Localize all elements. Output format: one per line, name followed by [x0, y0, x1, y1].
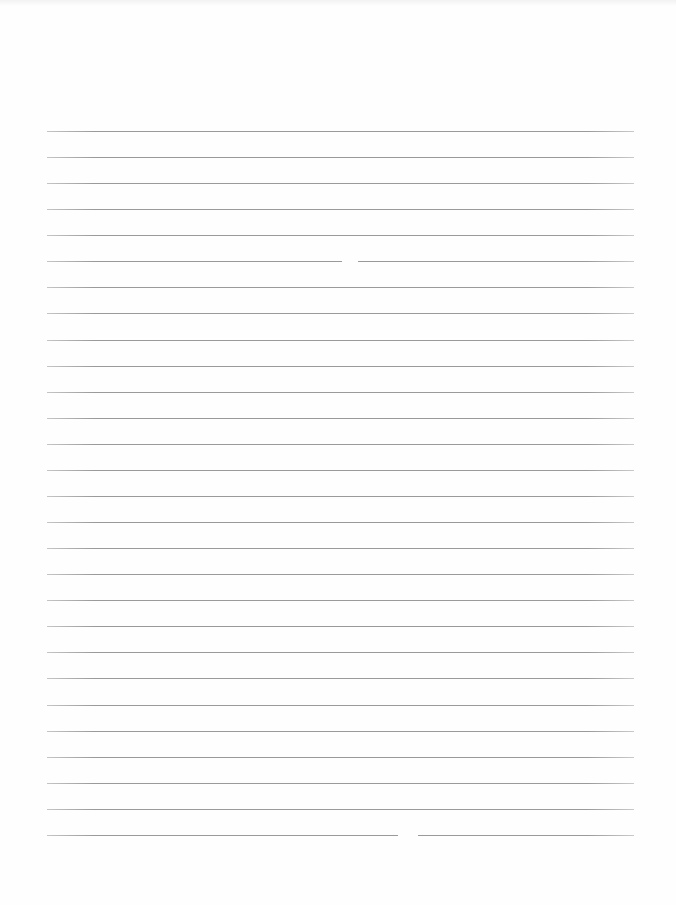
ruled-line	[47, 366, 634, 367]
ruled-line	[47, 183, 634, 184]
ruled-line	[47, 626, 634, 627]
ruled-line	[47, 574, 634, 575]
ruled-line	[47, 287, 634, 288]
ruled-line	[47, 209, 634, 210]
line-break-gap	[342, 260, 358, 263]
ruled-line	[47, 705, 634, 706]
scan-edge-shading	[0, 0, 676, 6]
ruled-line	[47, 522, 634, 523]
ruled-line	[47, 444, 634, 445]
ruled-line	[47, 783, 634, 784]
ruled-line	[47, 678, 634, 679]
ruled-line	[47, 418, 634, 419]
ruled-line	[47, 835, 634, 836]
ruled-line	[47, 809, 634, 810]
ruled-line	[47, 470, 634, 471]
ruled-line	[47, 340, 634, 341]
lined-paper-page	[0, 0, 676, 905]
ruled-line	[47, 261, 634, 262]
ruled-line	[47, 731, 634, 732]
ruled-line	[47, 757, 634, 758]
ruled-line	[47, 313, 634, 314]
ruled-line	[47, 652, 634, 653]
ruled-line	[47, 600, 634, 601]
line-break-gap	[398, 834, 418, 837]
ruled-line	[47, 157, 634, 158]
ruled-line	[47, 131, 634, 132]
ruled-line	[47, 392, 634, 393]
ruled-line	[47, 548, 634, 549]
ruled-line	[47, 235, 634, 236]
ruled-line	[47, 496, 634, 497]
